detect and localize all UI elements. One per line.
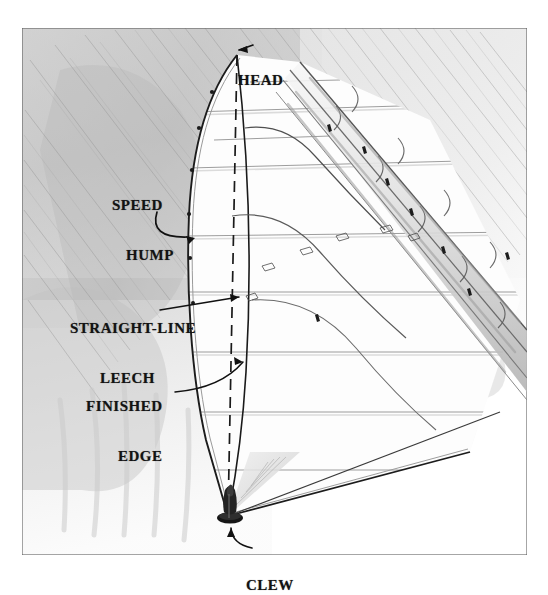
label-speed-hump-line1: Speed xyxy=(112,197,174,214)
label-head-text: Head xyxy=(238,72,283,89)
label-speed-hump: Speed Hump xyxy=(112,163,174,297)
label-straight-line-leech-line1: Straight-Line xyxy=(70,320,196,337)
label-clew: Clew xyxy=(246,543,294,595)
label-finished-edge-line1: Finished xyxy=(86,398,163,415)
label-finished-edge: Finished Edge xyxy=(86,364,163,498)
label-clew-text: Clew xyxy=(246,577,294,594)
label-head: Head xyxy=(238,38,283,122)
label-finished-edge-line2: Edge xyxy=(118,448,163,465)
label-speed-hump-line2: Hump xyxy=(126,247,174,264)
